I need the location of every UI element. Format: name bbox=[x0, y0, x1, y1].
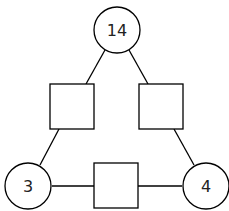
square-left[interactable] bbox=[50, 84, 94, 129]
triangle-diagram: 14 3 4 bbox=[0, 0, 229, 211]
circle-top-value: 14 bbox=[107, 21, 127, 40]
circle-bottom-left-value: 3 bbox=[23, 177, 33, 196]
edge-left-bottomleft bbox=[40, 129, 59, 165]
square-bottom[interactable] bbox=[94, 163, 138, 208]
edge-top-left bbox=[86, 50, 105, 84]
edge-top-right bbox=[129, 50, 148, 84]
edge-right-bottomright bbox=[174, 129, 194, 165]
circle-bottom-right-value: 4 bbox=[201, 177, 211, 196]
square-right[interactable] bbox=[139, 84, 183, 129]
